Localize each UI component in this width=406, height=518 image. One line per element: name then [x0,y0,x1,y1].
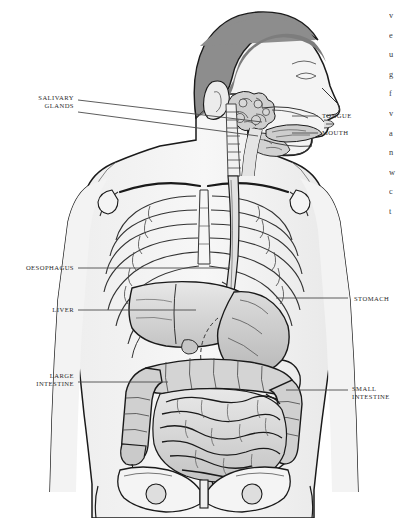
label-stomach: STOMACH [354,295,406,303]
label-salivary-glands: SALIVARY GLANDS [18,94,74,111]
label-small-intestine: SMALL INTESTINE [352,385,406,402]
label-mouth: MOUTH [322,129,382,137]
digestive-system-figure [0,0,406,518]
margin-text-line: g [389,65,406,85]
margin-text-line: n [389,143,406,163]
margin-text-line: f [389,84,406,104]
margin-text-line: t [389,202,406,222]
margin-text-line: u [389,45,406,65]
margin-text-line: a [389,124,406,144]
margin-text-line: c [389,182,406,202]
margin-text-line: v [389,104,406,124]
label-oesophagus: OESOPHAGUS [2,264,74,272]
margin-body-text-column: veugfvanwct [389,6,406,222]
margin-text-line: w [389,163,406,183]
margin-text-line: v [389,6,406,26]
label-large-intestine: LARGE INTESTINE [16,372,74,389]
margin-text-line: e [389,26,406,46]
label-liver: LIVER [30,306,74,314]
label-tongue: TONGUE [322,112,382,120]
